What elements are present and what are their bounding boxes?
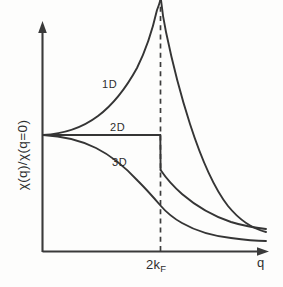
curve-3d xyxy=(43,135,266,241)
curve-1d xyxy=(43,0,160,135)
x-axis-tick-label-2kf: 2kF xyxy=(146,258,166,271)
x-axis-tick-label-2kf-main: 2k xyxy=(146,257,160,272)
curve-label-3d: 3D xyxy=(112,157,127,168)
y-axis-label-wrapper: χ(q)/χ(q=0) xyxy=(13,90,31,220)
curve-label-1d: 1D xyxy=(102,79,117,90)
curve-1d-right-branch xyxy=(161,0,266,232)
y-axis-label: χ(q)/χ(q=0) xyxy=(15,120,30,191)
up-arrow-icon xyxy=(38,21,47,33)
x-axis-label: q xyxy=(257,256,264,269)
x-axis-tick-label-2kf-subscript: F xyxy=(160,263,166,274)
chart-plot-area xyxy=(0,0,283,287)
curve-label-2d: 2D xyxy=(110,122,125,133)
chart-figure: χ(q)/χ(q=0) 2kF q 1D 2D 3D xyxy=(0,0,283,287)
